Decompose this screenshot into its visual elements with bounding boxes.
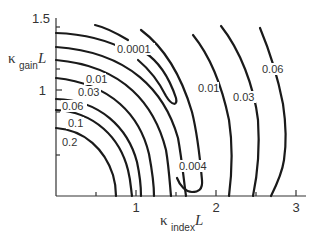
svg-text:gain: gain <box>19 60 38 71</box>
contour-label-0.0001: 0.0001 <box>117 43 151 55</box>
x-tick-label-1: 1 <box>132 200 139 215</box>
y-tick-label-1: 1 <box>39 83 46 98</box>
svg-text:L: L <box>194 212 203 228</box>
contour-plot: 1.5 1 1 2 3 κ gain L κ index L <box>0 0 314 235</box>
contour-0.0001-upper <box>95 25 128 40</box>
svg-text:L: L <box>37 50 46 66</box>
contour-label-0.004: 0.004 <box>179 160 207 172</box>
contour-label-0.03-left: 0.03 <box>78 86 99 98</box>
contour-label-0.03-right: 0.03 <box>233 91 254 103</box>
contour-label-0.2: 0.2 <box>62 136 77 148</box>
svg-text:index: index <box>171 222 195 233</box>
x-tick-label-3: 3 <box>292 200 299 215</box>
svg-text:κ: κ <box>8 50 16 66</box>
contour-label-0.06-left: 0.06 <box>62 100 83 112</box>
contour-label-0.01-left: 0.01 <box>86 73 107 85</box>
y-axis-label: κ gain L <box>8 50 46 71</box>
contour-lines <box>56 25 286 196</box>
contour-label-0.1: 0.1 <box>68 117 83 129</box>
contour-label-0.01-right: 0.01 <box>198 82 219 94</box>
x-axis-label: κ index L <box>160 212 203 233</box>
y-tick-label-1.5: 1.5 <box>32 11 50 26</box>
svg-text:κ: κ <box>160 212 168 228</box>
contour-0.06-right <box>260 28 286 196</box>
x-tick-label-2: 2 <box>212 200 219 215</box>
contour-label-0.06-right: 0.06 <box>262 63 283 75</box>
